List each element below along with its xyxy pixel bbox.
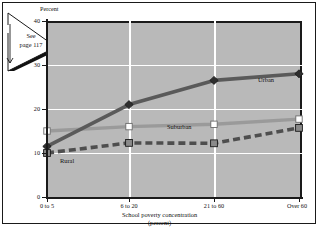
rural-line xyxy=(47,128,299,153)
rural-marker-1 xyxy=(126,140,133,147)
y-axis-title: Percent xyxy=(40,6,59,12)
x-tick-label-over60: Over 60 xyxy=(287,203,307,209)
see-page-line-1: See xyxy=(11,32,51,41)
rural-marker-3 xyxy=(296,125,303,132)
x-axis-line xyxy=(46,197,303,199)
x-tick-label-0to5: 0 to 5 xyxy=(40,203,54,209)
plot-area: Urban Suburban Rural xyxy=(47,21,302,197)
y-tick-label-30: 30 xyxy=(34,62,40,68)
series-label-urban: Urban xyxy=(258,77,274,83)
series-label-rural: Rural xyxy=(60,158,74,164)
x-axis-title: School poverty concentration (percent) xyxy=(0,211,319,227)
see-page-line-2: page 117 xyxy=(11,41,51,50)
x-axis-title-main: School poverty concentration xyxy=(122,211,197,218)
urban-marker-3 xyxy=(295,70,303,78)
y-tick-30 xyxy=(42,65,47,66)
y-tick-label-40: 40 xyxy=(34,18,40,24)
y-tick-label-20: 20 xyxy=(34,106,40,112)
series-label-suburban: Suburban xyxy=(167,124,192,130)
x-axis-title-unit: (percent) xyxy=(0,219,319,227)
suburban-marker-1 xyxy=(126,123,132,129)
figure-root: See page 117 Percent xyxy=(0,0,319,230)
y-tick-20 xyxy=(42,109,47,110)
y-tick-40 xyxy=(42,21,47,22)
suburban-marker-2 xyxy=(211,121,217,127)
rural-marker-2 xyxy=(211,140,218,147)
urban-marker-2 xyxy=(210,76,218,84)
suburban-marker-3 xyxy=(296,116,302,122)
y-tick-10 xyxy=(42,153,47,154)
y-tick-label-10: 10 xyxy=(34,150,40,156)
see-page-arrow-label: See page 117 xyxy=(11,32,51,49)
x-tick-label-21to60: 21 to 60 xyxy=(204,203,224,209)
x-tick-label-6to20: 6 to 20 xyxy=(120,203,137,209)
series-layer xyxy=(47,21,302,197)
y-tick-label-0: 0 xyxy=(37,194,40,200)
